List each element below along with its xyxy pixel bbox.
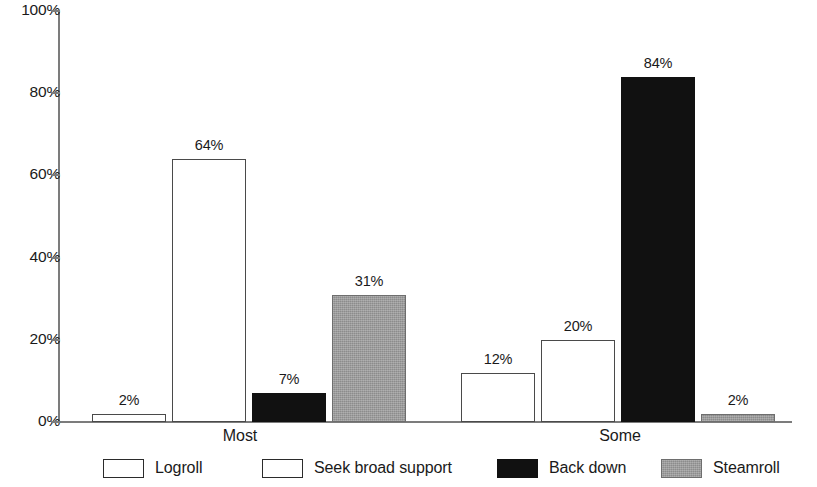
legend-swatch [103, 459, 144, 478]
legend-label: Logroll [155, 459, 202, 477]
bar [252, 393, 326, 422]
bar [541, 340, 615, 422]
bar-value-label: 7% [252, 371, 326, 387]
bar-value-label: 12% [461, 351, 535, 367]
legend-item[interactable]: Seek broad support [262, 456, 452, 480]
category-label: Most [180, 427, 300, 445]
legend-swatch [262, 459, 303, 478]
bar-value-label: 2% [92, 392, 166, 408]
bar [621, 77, 695, 422]
legend-label: Back down [549, 459, 626, 477]
plot-area: 100%80%60%40%20%0% 2%64%7%31%12%20%84%2%… [0, 0, 817, 440]
bars-layer: 2%64%7%31%12%20%84%2% [0, 10, 817, 422]
legend-label: Seek broad support [314, 459, 452, 477]
legend-item[interactable]: Steamroll [661, 456, 780, 480]
bar [332, 295, 406, 422]
bar [92, 414, 166, 422]
bar-value-label: 84% [621, 55, 695, 71]
legend-label: Steamroll [713, 459, 780, 477]
legend-swatch [661, 459, 702, 478]
category-label: Some [560, 427, 680, 445]
legend-item[interactable]: Back down [497, 456, 626, 480]
legend-swatch [497, 459, 538, 478]
legend-item[interactable]: Logroll [103, 456, 202, 480]
bar [461, 373, 535, 422]
bar-value-label: 64% [172, 137, 246, 153]
bar [701, 414, 775, 422]
bar-value-label: 31% [332, 273, 406, 289]
bar [172, 159, 246, 422]
legend: LogrollSeek broad supportBack downSteamr… [0, 456, 817, 484]
bar-value-label: 20% [541, 318, 615, 334]
bar-chart: 100%80%60%40%20%0% 2%64%7%31%12%20%84%2%… [0, 0, 817, 487]
bar-value-label: 2% [701, 392, 775, 408]
